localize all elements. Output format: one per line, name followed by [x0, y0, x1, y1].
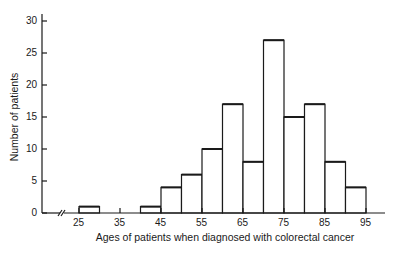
x-tick-label: 35	[114, 218, 125, 228]
x-tick-label: 55	[196, 218, 207, 228]
histogram-bar	[264, 40, 285, 213]
y-tick-label: 5	[31, 176, 37, 186]
x-tick-label: 95	[360, 218, 371, 228]
y-axis-label: Number of patients	[8, 73, 20, 162]
x-tick-label: 65	[237, 218, 248, 228]
histogram-bar	[243, 162, 264, 213]
histogram-bar	[305, 104, 326, 213]
y-tick-label: 25	[26, 48, 37, 58]
y-tick-label: 10	[26, 144, 37, 154]
y-tick-label: 30	[26, 16, 37, 26]
y-tick-label: 15	[26, 112, 37, 122]
histogram-bars	[79, 40, 366, 213]
x-tick-label: 45	[155, 218, 166, 228]
histogram-bar	[284, 117, 305, 213]
y-tick-label: 20	[26, 80, 37, 90]
histogram-bar	[202, 149, 223, 213]
histogram-bar	[161, 187, 182, 213]
x-axis-label: Ages of patients when diagnosed with col…	[96, 231, 355, 243]
histogram-bar	[223, 104, 244, 213]
x-tick-label: 85	[319, 218, 330, 228]
histogram-chart	[0, 0, 405, 253]
x-tick-label: 25	[73, 218, 84, 228]
x-tick-label: 75	[278, 218, 289, 228]
histogram-bar	[346, 187, 367, 213]
histogram-bar	[325, 162, 346, 213]
y-tick-label: 0	[31, 208, 37, 218]
histogram-bar	[182, 175, 203, 213]
